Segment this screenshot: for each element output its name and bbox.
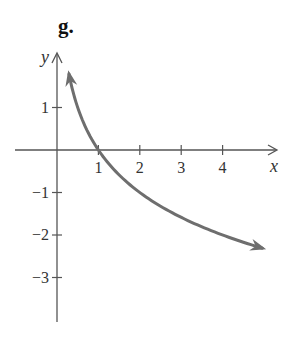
y-axis-label: y [39,47,49,67]
x-tick-label: 2 [136,159,144,176]
x-tick-label: 4 [219,159,227,176]
chart-plot: xy 12341−1−2−3 [0,0,292,340]
x-axis-label: x [269,156,278,176]
y-tick-label: −3 [32,269,49,286]
y-tick-label: −1 [32,184,49,201]
ticks: 12341−1−2−3 [32,99,227,286]
y-tick-label: −2 [32,226,49,243]
axes: xy [15,47,278,322]
x-tick-label: 3 [177,159,185,176]
x-tick-label: 1 [94,159,102,176]
y-tick-label: 1 [41,99,49,116]
